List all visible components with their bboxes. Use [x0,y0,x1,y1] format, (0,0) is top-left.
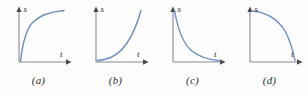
plot-panel-d: s t (d) [231,0,308,95]
x-axis-arrowhead-icon [297,59,303,64]
y-axis-label-a: s [24,4,28,14]
panel-caption-b: (b) [77,73,154,87]
x-axis-arrowhead-icon [220,59,226,64]
plot-panel-a: s t (a) [0,0,77,95]
y-axis-label-d: s [255,4,259,14]
y-axis-arrowhead-icon [93,7,98,12]
four-panel-graph-figure: s t (a) s t (b) s t (c) [0,0,308,95]
x-axis-label-a: t [60,49,63,59]
y-axis-label-c: s [178,4,182,14]
x-axis-label-c: t [214,49,217,59]
plot-axes-b: s t [77,0,154,75]
y-axis-arrowhead-icon [16,7,21,12]
x-axis-label-b: t [137,49,140,59]
curve-b [97,11,141,61]
plot-panel-c: s t (c) [154,0,231,95]
panel-caption-a: (a) [0,73,77,87]
plot-panel-b: s t (b) [77,0,154,95]
panel-caption-d: (d) [231,73,308,87]
plot-axes-c: s t [154,0,231,75]
x-axis-arrowhead-icon [66,59,72,64]
curve-d [252,11,296,61]
panel-caption-c: (c) [154,73,231,87]
plot-axes-a: s t [0,0,77,75]
x-axis-arrowhead-icon [143,59,149,64]
plot-axes-d: s t [231,0,308,75]
curve-a [21,11,65,62]
y-axis-label-b: s [101,4,105,14]
